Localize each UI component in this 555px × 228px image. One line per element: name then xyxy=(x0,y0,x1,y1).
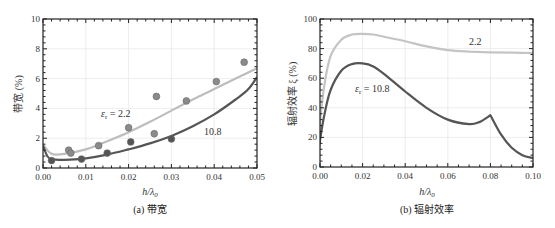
x-tick-label: 0.10 xyxy=(525,171,541,181)
data-point xyxy=(95,142,102,149)
panel-b-ylabel: 辐射效率 ξ (%) xyxy=(286,62,299,126)
y-tick-label: 80 xyxy=(308,44,318,54)
x-tick-label: 0.04 xyxy=(397,171,413,181)
y-tick-label: 2 xyxy=(36,133,41,143)
y-tick-label: 100 xyxy=(304,14,318,24)
y-tick-label: 20 xyxy=(308,132,318,142)
data-point xyxy=(213,78,220,85)
x-tick-label: 0.00 xyxy=(35,172,51,182)
panel-b-label-22: 2.2 xyxy=(469,36,482,47)
data-point xyxy=(104,150,111,157)
y-tick-label: 60 xyxy=(308,73,318,83)
x-tick-label: 0.06 xyxy=(440,171,456,181)
axes-frame xyxy=(320,19,533,167)
data-point xyxy=(78,156,85,163)
panel-a-xlabel: h/λ0 xyxy=(142,186,158,199)
data-point xyxy=(48,157,55,164)
panel-a-bandwidth-chart: 0.000.010.020.030.040.050246810 xyxy=(31,14,265,182)
x-tick-label: 0.02 xyxy=(355,171,371,181)
x-tick-label: 0.01 xyxy=(78,172,94,182)
x-tick-label: 0.04 xyxy=(206,172,222,182)
plot-area xyxy=(318,34,533,160)
plot-area xyxy=(43,59,257,164)
y-tick-label: 0 xyxy=(313,162,318,172)
panel-b-xlabel: h/λ0 xyxy=(419,186,435,199)
data-point xyxy=(127,139,134,146)
panel-a-label-108: 10.8 xyxy=(204,126,222,137)
y-tick-label: 8 xyxy=(36,44,41,54)
data-point xyxy=(125,124,132,131)
panel-b-label-er108: εr = 10.8 xyxy=(355,83,389,96)
x-tick-label: 0.08 xyxy=(483,171,499,181)
panel-a-ylabel: 带宽 (%) xyxy=(12,75,25,113)
x-tick-label: 0.05 xyxy=(249,172,265,182)
data-point xyxy=(183,98,190,105)
panel-a-label-er22: εr = 2.2 xyxy=(101,108,130,121)
data-point xyxy=(241,59,248,66)
axes-frame xyxy=(43,19,257,168)
panel-b-efficiency-chart: 0.000.020.040.060.080.10020406080100 xyxy=(304,14,542,181)
y-tick-label: 0 xyxy=(36,163,41,173)
panel-b-caption: (b) 辐射效率 xyxy=(400,203,454,216)
figure: 0.000.010.020.030.040.050246810 0.000.02… xyxy=(0,0,555,228)
x-tick-label: 0.03 xyxy=(164,172,180,182)
data-point xyxy=(151,130,158,137)
series-line xyxy=(43,77,257,160)
panel-a-caption: (a) 带宽 xyxy=(133,203,167,216)
series-line xyxy=(43,68,257,154)
data-point xyxy=(67,150,74,157)
y-tick-label: 10 xyxy=(31,14,41,24)
data-point xyxy=(153,93,160,100)
series-line xyxy=(318,63,533,159)
y-tick-label: 40 xyxy=(308,103,318,113)
x-tick-label: 0.00 xyxy=(312,171,328,181)
x-tick-label: 0.02 xyxy=(121,172,137,182)
y-tick-label: 4 xyxy=(36,103,41,113)
y-tick-label: 6 xyxy=(36,74,41,84)
data-point xyxy=(168,136,175,143)
